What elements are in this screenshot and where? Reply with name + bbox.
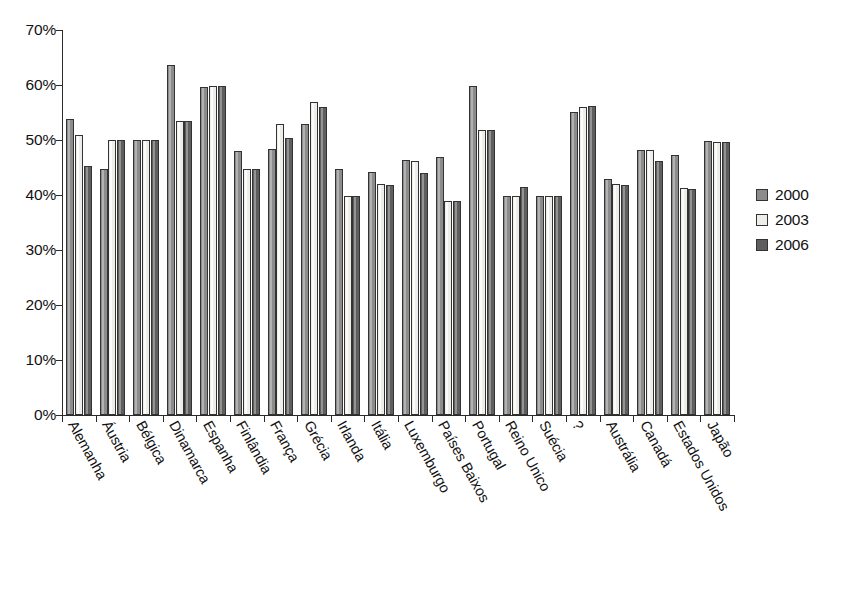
bar (420, 173, 428, 415)
bar (512, 196, 520, 415)
bar (503, 196, 511, 415)
bar-highlight (690, 190, 692, 414)
bar (184, 121, 192, 415)
bar-highlight (135, 141, 137, 414)
bar (637, 150, 645, 415)
legend-item: 2006 (756, 232, 842, 257)
bar-highlight (278, 125, 280, 414)
plot-area (62, 30, 734, 415)
bar (66, 119, 74, 415)
x-axis-tick-mark (667, 416, 668, 422)
bar-highlight (153, 141, 155, 414)
bar-highlight (581, 108, 583, 414)
bar (579, 107, 587, 415)
bar (536, 196, 544, 415)
x-axis-category-label: Japão (704, 418, 737, 460)
bar-highlight (245, 170, 247, 414)
bar (469, 86, 477, 415)
bar-highlight (556, 197, 558, 414)
bar (243, 169, 251, 415)
bar-highlight (446, 202, 448, 414)
x-axis-tick-mark (432, 416, 433, 422)
bar (604, 179, 612, 416)
x-axis-tick-mark (600, 416, 601, 422)
bar-highlight (572, 113, 574, 414)
legend-item: 2000 (756, 182, 842, 207)
bar (200, 87, 208, 415)
bar-highlight (202, 88, 204, 414)
bar-highlight (220, 87, 222, 414)
bar (151, 140, 159, 415)
x-axis-category-label: Irlanda (334, 418, 369, 464)
bar (209, 86, 217, 415)
x-axis-tick-mark (163, 416, 164, 422)
y-axis-tick-label: 70% (2, 22, 56, 37)
x-axis-tick-mark (96, 416, 97, 422)
bar-highlight (77, 136, 79, 415)
bar (142, 140, 150, 415)
bar (612, 184, 620, 415)
bar-highlight (590, 107, 592, 414)
x-axis-tick-mark (734, 416, 735, 422)
bar (218, 86, 226, 415)
y-axis-tick-label: 50% (2, 132, 56, 147)
bar (377, 184, 385, 415)
bar-highlight (422, 174, 424, 414)
chart-legend: 200020032006 (756, 182, 842, 257)
bar-highlight (270, 150, 272, 414)
bar-highlight (379, 185, 381, 414)
bar-highlight (547, 197, 549, 414)
bar (234, 151, 242, 415)
bar-highlight (354, 197, 356, 414)
bar-highlight (639, 151, 641, 414)
x-axis-tick-mark (465, 416, 466, 422)
bar-highlight (370, 173, 372, 414)
bar-highlight (480, 131, 482, 414)
bar (75, 135, 83, 416)
bar-highlight (522, 188, 524, 414)
bar-highlight (715, 143, 717, 414)
bar (671, 155, 679, 415)
bar (680, 188, 688, 415)
x-axis-tick-mark (398, 416, 399, 422)
y-axis-tick-label: 30% (2, 242, 56, 257)
bar-highlight (682, 189, 684, 414)
legend-swatch-icon (756, 189, 768, 201)
x-axis-tick-mark (532, 416, 533, 422)
bar-highlight (505, 197, 507, 414)
y-axis-tick-mark (56, 250, 62, 251)
x-axis-tick-mark (196, 416, 197, 422)
bar (100, 169, 108, 415)
x-axis-label-group: AlemanhaÁustriaBélgicaDinamarcaEspanhaFi… (62, 418, 762, 592)
bar-highlight (321, 108, 323, 414)
bar (570, 112, 578, 415)
x-axis-category-label: Bélgica (133, 418, 170, 467)
bar-highlight (287, 139, 289, 414)
legend-swatch-icon (756, 214, 768, 226)
bar (108, 140, 116, 415)
bar-highlight (538, 197, 540, 414)
bar-highlight (312, 103, 314, 415)
bar (453, 201, 461, 415)
bar (167, 65, 175, 415)
y-axis-tick-label: 10% (2, 352, 56, 367)
bar (344, 196, 352, 415)
bar-highlight (186, 122, 188, 414)
bar-highlight (102, 170, 104, 414)
y-axis-tick-mark (56, 360, 62, 361)
bar-highlight (673, 156, 675, 414)
y-axis-tick-label: 20% (2, 297, 56, 312)
bar-highlight (404, 161, 406, 414)
x-axis-tick-mark (633, 416, 634, 422)
bar-highlight (144, 141, 146, 414)
bar (588, 106, 596, 415)
bar (84, 166, 92, 415)
x-axis-tick-mark (499, 416, 500, 422)
x-axis-category-label: Áustria (99, 418, 135, 465)
bar (646, 150, 654, 415)
bar-highlight (706, 142, 708, 414)
bar (301, 124, 309, 416)
bar-highlight (455, 202, 457, 414)
x-axis-tick-mark (364, 416, 365, 422)
bar (310, 102, 318, 416)
